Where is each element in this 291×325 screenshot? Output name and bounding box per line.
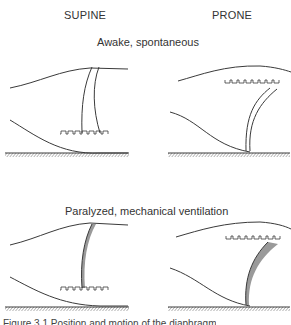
panel-paralyzed-supine — [5, 223, 129, 311]
panel-paralyzed-prone — [168, 222, 291, 311]
panel-awake-supine — [5, 67, 129, 157]
figure-caption: Figure 3.1 Position and motion of the di… — [3, 317, 216, 325]
diaphragm-diagram — [0, 0, 291, 325]
panel-awake-prone — [168, 66, 291, 157]
